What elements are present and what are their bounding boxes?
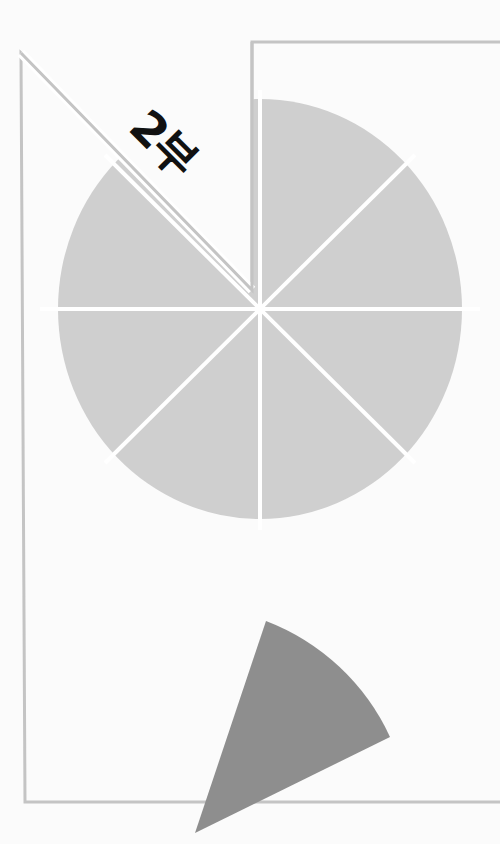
pie-chart — [40, 90, 480, 530]
pie-illustration — [0, 0, 500, 844]
